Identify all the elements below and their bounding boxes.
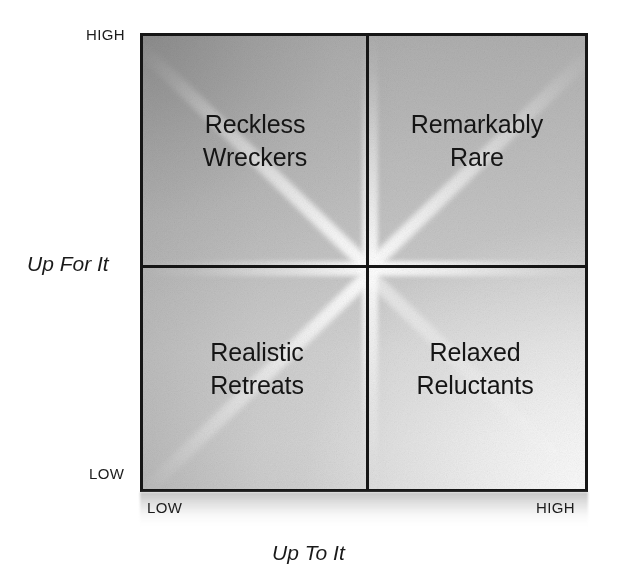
y-axis-high-label: HIGH <box>86 26 125 43</box>
light-ray-right <box>365 261 588 276</box>
quadrant-top-left-line2: Wreckers <box>155 141 355 174</box>
quadrant-top-right-line1: Remarkably <box>377 108 577 141</box>
x-axis-title: Up To It <box>272 541 345 565</box>
y-axis-low-label: LOW <box>89 465 124 482</box>
plot-area: Reckless Wreckers Remarkably Rare Realis… <box>140 33 588 492</box>
vertical-divider <box>366 36 369 489</box>
quadrant-label-top-left: Reckless Wreckers <box>155 108 355 173</box>
horizontal-divider <box>143 265 585 268</box>
light-ray-up <box>362 33 378 272</box>
quadrant-bottom-right-line2: Reluctants <box>375 369 575 402</box>
quadrant-label-top-right: Remarkably Rare <box>377 108 577 173</box>
quadrant-label-bottom-left: Realistic Retreats <box>157 336 357 401</box>
y-axis-title: Up For It <box>27 252 109 276</box>
quadrant-label-bottom-right: Relaxed Reluctants <box>375 336 575 401</box>
quadrant-bottom-right-line1: Relaxed <box>375 336 575 369</box>
quadrant-top-left-line1: Reckless <box>155 108 355 141</box>
quadrant-bottom-left-line2: Retreats <box>157 369 357 402</box>
light-rays-group <box>143 36 585 489</box>
x-axis-low-label: LOW <box>147 499 182 516</box>
x-axis-high-label: HIGH <box>536 499 575 516</box>
quadrant-bottom-left-line1: Realistic <box>157 336 357 369</box>
plot-drop-shadow <box>140 492 588 526</box>
quadrant-top-right-line2: Rare <box>377 141 577 174</box>
quadrant-matrix-figure: Reckless Wreckers Remarkably Rare Realis… <box>0 0 624 587</box>
light-ray-left <box>140 261 371 276</box>
